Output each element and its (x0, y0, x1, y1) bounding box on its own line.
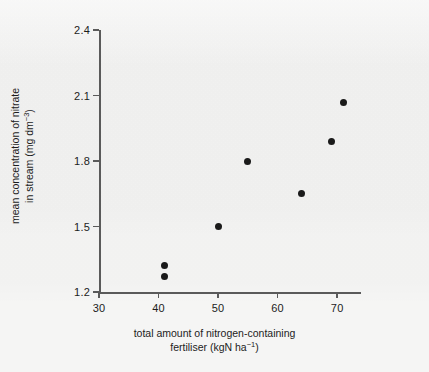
x-axis-tick (217, 292, 219, 298)
y-axis-title: mean concentration of nitrate in stream … (8, 46, 36, 266)
y-axis-line (99, 30, 101, 292)
x-axis-title-line2-post: ) (255, 341, 259, 353)
x-axis-title: total amount of nitrogen-containing fert… (0, 326, 429, 354)
data-point (340, 99, 347, 106)
x-axis-tick-label: 50 (212, 302, 225, 314)
x-axis-title-line2-pre: fertiliser (kgN ha (170, 341, 246, 353)
data-point (298, 190, 305, 197)
x-axis-tick (336, 292, 338, 298)
x-axis-tick-label: 30 (93, 302, 106, 314)
y-axis-title-line1: mean concentration of nitrate (9, 88, 21, 224)
x-axis-tick-label: 70 (331, 302, 344, 314)
y-axis-title-exponent: −3 (22, 113, 31, 122)
y-axis-tick-label: 1.5 (74, 221, 90, 233)
y-axis-tick (93, 95, 99, 97)
y-axis-title-line2-pre: in stream (mg dm (23, 121, 35, 203)
y-axis-tick-label: 2.1 (74, 90, 90, 102)
data-point (161, 273, 168, 280)
data-point (161, 262, 168, 269)
y-axis-tick (93, 226, 99, 228)
x-axis-tick (158, 292, 160, 298)
x-axis-tick (277, 292, 279, 298)
x-axis-line (99, 292, 361, 294)
y-axis-tick (93, 29, 99, 31)
y-axis-tick-label: 2.4 (74, 24, 90, 36)
y-axis-tick-label: 1.2 (74, 286, 90, 298)
x-axis-title-line1: total amount of nitrogen-containing (134, 327, 296, 339)
y-axis-title-line2-post: ) (23, 109, 35, 113)
x-axis-tick-label: 40 (152, 302, 165, 314)
y-axis-tick (93, 160, 99, 162)
data-point (328, 138, 335, 145)
data-point (215, 223, 222, 230)
data-point (244, 158, 251, 165)
scatter-chart: 1.21.51.82.12.4 3040506070 mean concentr… (0, 0, 429, 372)
x-axis-tick-label: 60 (271, 302, 284, 314)
x-axis-tick (98, 292, 100, 298)
plot-area: 1.21.51.82.12.4 3040506070 (99, 30, 361, 292)
y-axis-tick-label: 1.8 (74, 155, 90, 167)
x-axis-title-exponent: −1 (247, 340, 256, 349)
